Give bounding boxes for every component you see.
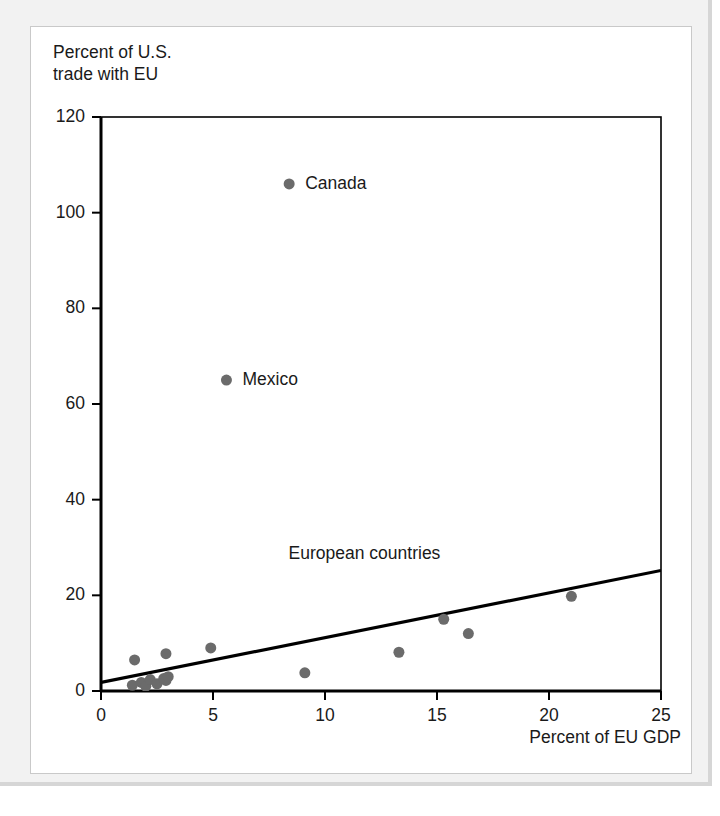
figure-card: 0204060801001200510152025CanadaMexicoEur… (30, 26, 692, 774)
plot-frame (101, 117, 661, 691)
data-point (463, 628, 474, 639)
figure-outer-frame: 0204060801001200510152025CanadaMexicoEur… (0, 0, 712, 786)
scatter-chart: 0204060801001200510152025CanadaMexicoEur… (31, 27, 693, 775)
data-point (284, 178, 295, 189)
data-point (438, 614, 449, 625)
data-point (299, 667, 310, 678)
data-point (163, 671, 174, 682)
plot-area (31, 27, 693, 775)
series-group (101, 178, 661, 691)
data-point-label: Mexico (242, 369, 297, 390)
trend-line (101, 570, 661, 682)
data-point (160, 648, 171, 659)
data-point (221, 375, 232, 386)
data-point (205, 642, 216, 653)
data-point-label: Canada (305, 173, 366, 194)
data-point (129, 654, 140, 665)
data-point (393, 647, 404, 658)
chart-annotation: European countries (289, 543, 441, 564)
data-point (566, 591, 577, 602)
x-axis-title: Percent of EU GDP (529, 727, 681, 748)
y-axis-title: Percent of U.S. trade with EU (53, 41, 172, 85)
